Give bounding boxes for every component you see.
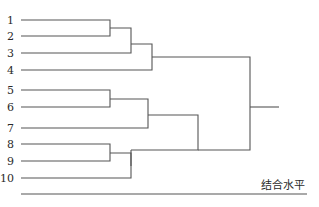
branch-1-2	[21, 20, 110, 36]
leaf-label-9: 9	[7, 155, 14, 168]
cluster-5-7	[21, 90, 148, 128]
leaf-label-1: 1	[7, 14, 14, 27]
leaf-label-3: 3	[7, 47, 14, 60]
branch-root	[152, 57, 250, 150]
leaf-label-10: 10	[0, 172, 14, 185]
leaf-label-6: 6	[7, 101, 14, 114]
leaf-label-5: 5	[7, 84, 14, 97]
axis-label: 结合水平	[261, 178, 305, 192]
branch-8-9	[21, 144, 110, 161]
cluster-8-10	[21, 144, 131, 178]
branch-89-10	[21, 153, 131, 178]
leaf-label-8: 8	[7, 138, 14, 151]
branch-12-3	[21, 28, 131, 53]
cluster-1-4	[21, 20, 152, 70]
leaf-label-7: 7	[7, 122, 14, 135]
branch-567-8910	[131, 115, 198, 150]
leaf-label-2: 2	[7, 30, 14, 43]
dendrogram: 1 2 3 4 5 6 7 8 9 10 结合水平	[0, 0, 319, 207]
branch-5-6	[21, 90, 110, 107]
branch-56-7	[21, 99, 148, 128]
branch-123-4	[21, 44, 152, 70]
leaf-label-4: 4	[7, 64, 14, 77]
